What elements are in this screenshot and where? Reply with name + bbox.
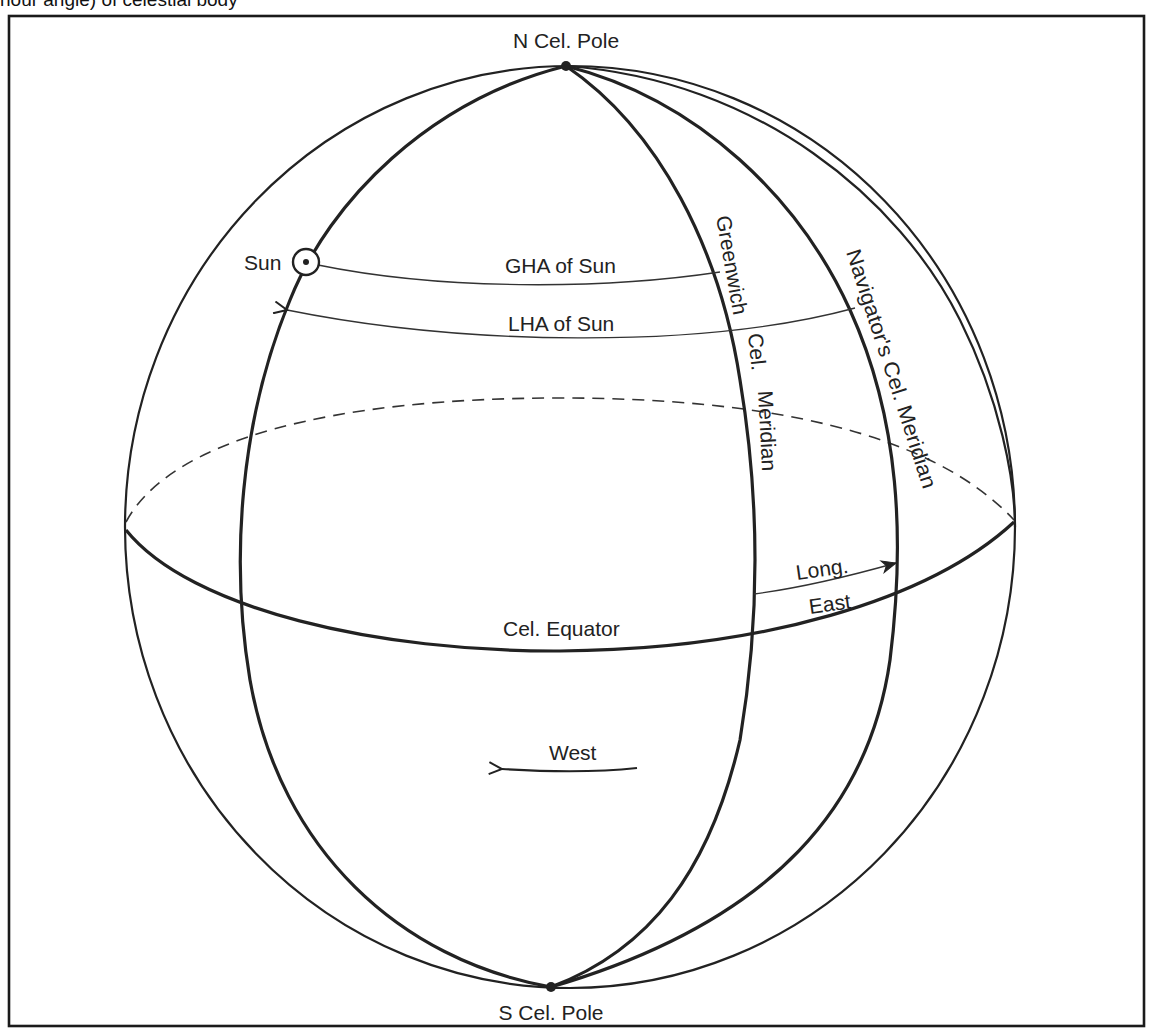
greenwich-label: Greenwich: [712, 214, 752, 317]
celestial-sphere-diagram: N Cel. Pole S Cel. Pole Sun GHA of Sun L…: [0, 0, 1151, 1028]
greenwich-celestial-meridian: [551, 66, 755, 987]
equator-label: Cel. Equator: [503, 617, 620, 640]
west-direction-arrow: [502, 768, 637, 771]
gha-label: GHA of Sun: [505, 254, 616, 277]
lha-label: LHA of Sun: [508, 312, 614, 335]
diagram-frame: [9, 16, 1144, 1026]
east-label: East: [807, 589, 852, 618]
sun-symbol: [293, 249, 319, 275]
west-label: West: [549, 741, 597, 764]
greenwich-cel-label: Cel.: [744, 332, 771, 372]
longitude-label: Long.: [794, 554, 849, 584]
north-pole-label: N Cel. Pole: [513, 29, 619, 52]
navigators-celestial-meridian: [551, 66, 897, 987]
south-pole-point: [546, 982, 556, 992]
south-pole-label: S Cel. Pole: [498, 1001, 603, 1024]
outer-meridian: [566, 66, 1015, 527]
celestial-equator-back: [126, 398, 1014, 522]
sun-label: Sun: [244, 251, 281, 274]
sphere-outline: [125, 66, 1015, 988]
greenwich-meridian-label: Meridian: [754, 390, 781, 472]
north-pole-point: [561, 61, 571, 71]
sun-hour-circle: [240, 66, 566, 987]
